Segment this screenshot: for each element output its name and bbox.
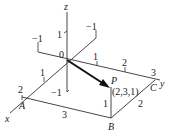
y-tick-3-label: 3 (151, 67, 156, 78)
z-tick-1-label: 1 (57, 29, 62, 40)
y-tick-2-label: 2 (122, 57, 127, 68)
point-P-coords: (2,3,1) (112, 86, 139, 98)
origin-label: 0 (59, 49, 64, 60)
x-tick-1-label: 1 (40, 67, 45, 78)
coordinate-diagram: z x y 0 1 −1 −1 −1 1 2 1 2 3 A B C P (2,… (0, 0, 172, 135)
point-P-label: P (110, 75, 117, 86)
point-C-label: C (150, 82, 157, 93)
x-axis-label: x (4, 113, 10, 124)
point-A-label: A (18, 100, 26, 111)
neg-x-label: −1 (86, 21, 97, 32)
edge-BP-label: 1 (103, 98, 108, 109)
edge-AB-label: 3 (62, 109, 67, 120)
x-tick-2-label: 2 (18, 84, 23, 95)
z-axis-label: z (63, 1, 68, 12)
y-tick-1-label: 1 (93, 51, 98, 62)
y-axis (38, 52, 160, 80)
neg-y-label: −1 (32, 33, 43, 44)
neg-z-label: −1 (51, 87, 62, 98)
edge-BC-label: 2 (138, 98, 143, 109)
arrowhead-icon (99, 79, 110, 88)
vector-OP (67, 60, 104, 84)
point-B-label: B (108, 121, 114, 132)
y-axis-label: y (159, 78, 165, 89)
